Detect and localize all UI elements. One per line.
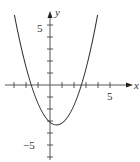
y-axis-arrow [48, 11, 53, 18]
x-axis-label: x [133, 79, 139, 91]
graph: y x 5 5 −5 [0, 0, 140, 162]
x-tick-label-5: 5 [107, 90, 113, 102]
x-axis-arrow [126, 83, 133, 88]
y-axis-label: y [54, 6, 60, 18]
y-tick-label-neg5: −5 [23, 139, 35, 151]
y-tick-label-5: 5 [37, 22, 43, 34]
parabola-curve [14, 15, 97, 125]
